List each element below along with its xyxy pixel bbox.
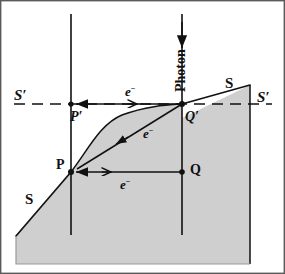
label-point-q-prime: Q′ <box>185 110 199 124</box>
label-point-q: Q <box>190 163 201 177</box>
label-reference-plane-right: S′ <box>257 90 270 105</box>
label-electron-base-charge: − <box>126 177 131 186</box>
label-electron-diagonal-charge: − <box>149 126 154 135</box>
marker-point-p <box>68 169 74 175</box>
label-point-p: P <box>56 158 65 172</box>
photoelectric-surface-diagram: S′ S′ S S P′ Q′ P Q Photon e− e− e− <box>0 0 285 274</box>
label-surface-left: S <box>25 192 33 207</box>
label-electron-surface-plane: e− <box>125 85 135 98</box>
label-electron-diagonal: e− <box>143 127 153 140</box>
label-photon: Photon <box>174 49 188 92</box>
marker-point-q-prime <box>179 101 185 107</box>
label-electron-surface-plane-charge: − <box>131 84 136 93</box>
label-reference-plane-left: S′ <box>14 88 27 103</box>
label-surface-right: S <box>225 76 233 91</box>
marker-point-q <box>179 169 185 175</box>
label-point-p-prime: P′ <box>70 110 83 124</box>
marker-point-p-prime <box>68 101 73 106</box>
label-electron-base: e− <box>120 178 130 191</box>
